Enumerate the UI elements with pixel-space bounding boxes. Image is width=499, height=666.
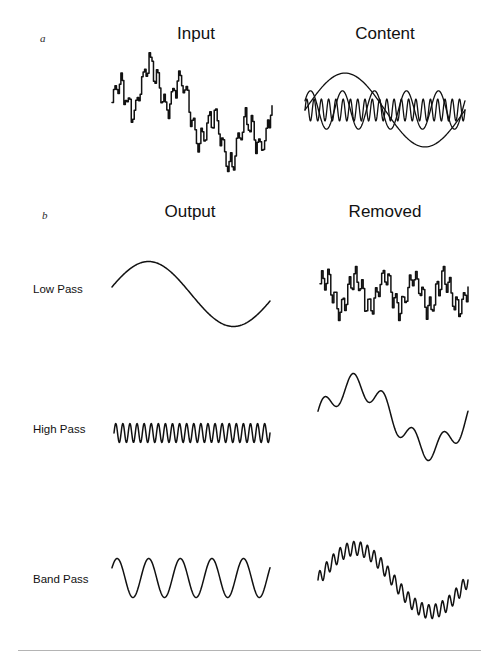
plot-highpass-removed xyxy=(318,372,468,462)
plot-lowpass-removed xyxy=(320,265,468,321)
plot-lowpass-output xyxy=(112,255,270,333)
plot-content-svg xyxy=(305,62,465,158)
plot-highpass-output-svg xyxy=(114,418,270,448)
footer-divider xyxy=(18,650,481,651)
waveform-bandpass-removed xyxy=(318,541,468,618)
plot-lowpass-removed-svg xyxy=(320,265,468,321)
column-header-output: Output xyxy=(164,202,215,222)
plot-bandpass-removed-svg xyxy=(318,540,468,620)
plot-bandpass-removed xyxy=(318,540,468,620)
waveform-bandpass-output xyxy=(112,559,270,598)
column-header-removed: Removed xyxy=(349,202,422,222)
row-label-high-pass: High Pass xyxy=(33,423,85,435)
waveform-highpass-removed xyxy=(318,373,468,460)
row-label-low-pass: Low Pass xyxy=(33,283,83,295)
plot-highpass-removed-svg xyxy=(318,372,468,462)
waveform-highpass-output xyxy=(114,424,270,443)
panel-letter-b: b xyxy=(42,209,48,221)
plot-highpass-output xyxy=(114,418,270,448)
plot-lowpass-output-svg xyxy=(112,255,270,333)
plot-input-svg xyxy=(112,58,272,168)
waveform-lowpass-removed xyxy=(320,266,468,320)
row-label-band-pass: Band Pass xyxy=(33,573,89,585)
waveform-lowpass-output xyxy=(112,262,270,327)
waveform-input xyxy=(112,53,272,172)
column-header-input: Input xyxy=(177,24,215,44)
figure-canvas: a Input Content b Output Removed Low Pas… xyxy=(0,0,499,666)
plot-content xyxy=(305,62,465,158)
plot-bandpass-output xyxy=(112,548,270,608)
column-header-content: Content xyxy=(355,24,415,44)
plot-bandpass-output-svg xyxy=(112,548,270,608)
plot-input xyxy=(112,58,272,168)
panel-letter-a: a xyxy=(40,32,46,44)
